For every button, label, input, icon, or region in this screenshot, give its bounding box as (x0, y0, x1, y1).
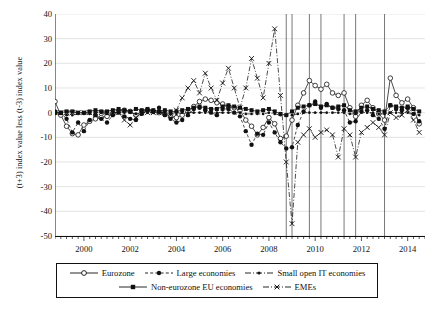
legend-item-large-economies: Large economies (144, 268, 236, 278)
legend-swatch-eurozone (69, 268, 99, 278)
legend-item-small-open-it: Small open IT economies (244, 268, 365, 278)
legend-swatch-small-open-it (244, 268, 274, 278)
legend-swatch-large-economies (144, 268, 174, 278)
legend-row-1: Eurozone Large economies Small open IT e… (63, 268, 371, 278)
y-tick-9: -50 (26, 231, 52, 241)
x-tick-0: 2000 (75, 244, 92, 254)
plot-area (55, 14, 425, 236)
chart-figure: (t+3) index value less (t-3) index value… (0, 0, 435, 309)
legend-swatch-non-eurozone-eu (118, 282, 148, 292)
y-axis-tick-labels: 403020100-10-20-30-40-50 (24, 14, 52, 236)
legend-item-non-eurozone-eu: Non-eurozone EU economies (118, 282, 253, 292)
y-tick-0: 40 (26, 9, 52, 19)
legend-label-small-open-it: Small open IT economies (277, 269, 365, 278)
legend-item-eurozone: Eurozone (69, 268, 135, 278)
legend-label-large-economies: Large economies (177, 269, 236, 278)
legend-swatch-emes (262, 282, 292, 292)
x-axis-tick-labels: 20002002200420062008201020122014 (55, 240, 425, 254)
y-tick-7: -30 (26, 182, 52, 192)
y-tick-8: -40 (26, 206, 52, 216)
y-tick-4: 0 (26, 108, 52, 118)
x-tick-3: 2006 (214, 244, 231, 254)
legend-label-emes: EMEs (295, 283, 316, 292)
series-emes (55, 26, 422, 226)
chart-legend: Eurozone Large economies Small open IT e… (56, 263, 378, 298)
x-axis-spine (55, 236, 425, 242)
y-tick-6: -20 (26, 157, 52, 167)
y-tick-5: -10 (26, 132, 52, 142)
legend-item-emes: EMEs (262, 282, 316, 292)
chart-canvas (55, 14, 425, 236)
x-tick-5: 2010 (307, 244, 324, 254)
y-tick-1: 30 (26, 34, 52, 44)
x-tick-4: 2008 (260, 244, 277, 254)
legend-row-2: Non-eurozone EU economies EMEs (63, 282, 371, 292)
x-tick-6: 2012 (353, 244, 370, 254)
x-tick-1: 2002 (122, 244, 139, 254)
y-tick-3: 10 (26, 83, 52, 93)
legend-label-non-eurozone-eu: Non-eurozone EU economies (151, 283, 253, 292)
legend-label-eurozone: Eurozone (102, 269, 135, 278)
y-tick-2: 20 (26, 58, 52, 68)
y-axis-title: (t+3) index value less (t-3) index value (15, 18, 24, 228)
x-tick-2: 2004 (168, 244, 185, 254)
series-small-open-it-economies (55, 111, 421, 116)
x-tick-7: 2014 (399, 244, 416, 254)
